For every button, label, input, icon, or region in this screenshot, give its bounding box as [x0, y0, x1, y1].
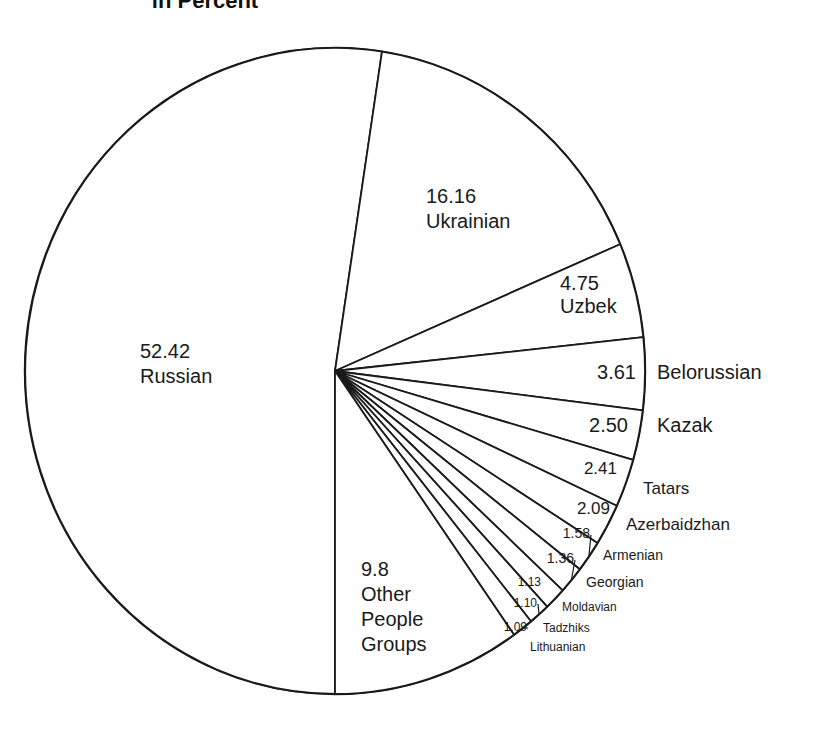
slice-name-uzbek: Uzbek — [560, 295, 618, 317]
slice-name-georgian: Georgian — [586, 574, 644, 590]
slice-value-lithuanian: 1.09 — [504, 620, 528, 634]
slice-name-moldavian: Moldavian — [562, 600, 617, 614]
slice-value-georgian: 1.36 — [547, 550, 574, 566]
slice-value-armenian: 1.58 — [563, 525, 590, 541]
slice-value-kazak: 2.50 — [589, 414, 628, 436]
slice-name-tatars: Tatars — [643, 479, 689, 498]
pie-slices — [25, 48, 645, 694]
slice-value-belorussian: 3.61 — [597, 361, 636, 383]
chart-title: in Percent — [152, 0, 259, 13]
slice-name-lithuanian: Lithuanian — [530, 640, 585, 654]
slice-name-kazak: Kazak — [657, 414, 714, 436]
slice-name-ukrainian: Ukrainian — [426, 210, 510, 232]
slice-value-russian: 52.42 — [140, 340, 190, 362]
slice-name-other-people-groups-line-3: Groups — [361, 633, 427, 655]
slice-value-moldavian: 1.13 — [518, 575, 542, 589]
slice-name-russian: Russian — [140, 365, 212, 387]
slice-value-azerbaidzhan: 2.09 — [577, 499, 610, 518]
slice-value-ukrainian: 16.16 — [426, 185, 476, 207]
slice-value-other-people-groups: 9.8 — [361, 558, 389, 580]
slice-name-armenian: Armenian — [603, 547, 663, 563]
slice-value-tadzhiks: 1.10 — [514, 596, 538, 610]
slice-name-tadzhiks: Tadzhiks — [543, 621, 590, 635]
slice-value-uzbek: 4.75 — [560, 272, 599, 294]
slice-name-other-people-groups-line-2: People — [361, 608, 423, 630]
slice-name-azerbaidzhan: Azerbaidzhan — [626, 515, 730, 534]
slice-value-tatars: 2.41 — [584, 459, 617, 478]
pie-chart: in Percent 52.42Russian16.16Ukrainian4.7… — [0, 0, 817, 730]
slice-name-other-people-groups-line-1: Other — [361, 583, 411, 605]
slice-name-belorussian: Belorussian — [657, 361, 762, 383]
